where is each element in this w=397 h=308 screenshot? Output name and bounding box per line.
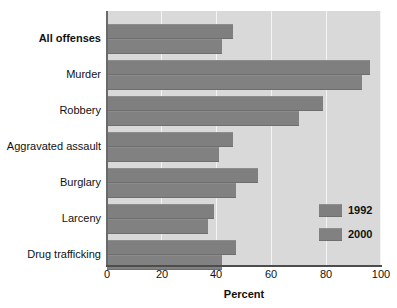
legend: 1992 2000 [319,203,393,249]
plot-area: 1992 2000 [107,11,381,265]
bar-drug-trafficking-1992 [107,240,236,255]
category-label-burglary: Burglary [0,176,101,188]
bar-robbery-1992 [107,96,323,111]
bar-murder-1992 [107,60,370,75]
category-label-murder: Murder [0,68,101,80]
legend-label-1992: 1992 [348,203,372,218]
y-axis-line [106,11,108,267]
bar-burglary-1992 [107,168,258,183]
legend-swatch-2000-icon [319,228,342,241]
x-tick-20: 20 [142,268,182,281]
category-label-aggravated-assault: Aggravated assault [0,140,101,152]
bar-aggravated-assault-2000 [107,147,219,162]
bar-robbery-2000 [107,111,299,126]
bar-burglary-2000 [107,183,236,198]
category-axis-labels: All offenses Murder Robbery Aggravated a… [0,11,104,265]
legend-item-1992: 1992 [319,203,393,219]
x-tick-100: 100 [361,268,397,281]
bar-all-offenses-2000 [107,39,222,54]
legend-label-2000: 2000 [348,227,372,242]
bar-murder-2000 [107,75,362,90]
category-label-robbery: Robbery [0,104,101,116]
x-tick-60: 60 [251,268,291,281]
x-axis-tick-labels: 0 20 40 60 80 100 [0,268,397,284]
category-label-larceny: Larceny [0,212,101,224]
x-tick-40: 40 [196,268,236,281]
x-tick-80: 80 [306,268,346,281]
x-axis-title: Percent [107,288,381,300]
x-axis-line [106,265,382,267]
legend-swatch-1992-icon [319,204,342,217]
bar-all-offenses-1992 [107,24,233,39]
gridline-60 [271,11,272,265]
x-tick-0: 0 [87,268,127,281]
bar-larceny-1992 [107,204,214,219]
category-label-drug-trafficking: Drug trafficking [0,248,101,260]
bar-chart: All offenses Murder Robbery Aggravated a… [0,0,397,308]
bar-aggravated-assault-1992 [107,132,233,147]
bar-larceny-2000 [107,219,208,234]
legend-item-2000: 2000 [319,227,393,243]
category-label-all-offenses: All offenses [0,32,101,44]
